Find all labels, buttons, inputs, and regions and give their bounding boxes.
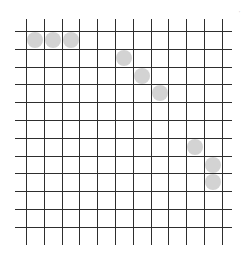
grid-line-horizontal <box>15 31 232 32</box>
stone-piece[interactable] <box>205 157 221 173</box>
grid-line-vertical <box>186 19 187 245</box>
grid-line-vertical <box>62 19 63 245</box>
grid-line-horizontal <box>15 138 232 139</box>
grid-line-horizontal <box>15 156 232 157</box>
grid-line-horizontal <box>15 191 232 192</box>
grid-line-horizontal <box>15 209 232 210</box>
grid-line-vertical <box>204 19 205 245</box>
stone-piece[interactable] <box>116 50 132 66</box>
grid-line-vertical <box>26 19 27 245</box>
stone-piece[interactable] <box>152 85 168 101</box>
grid-line-horizontal <box>15 120 232 121</box>
stone-piece[interactable] <box>45 32 61 48</box>
grid-line-vertical <box>133 19 134 245</box>
grid-line-horizontal <box>15 227 232 228</box>
grid-line-vertical <box>97 19 98 245</box>
grid-line-vertical <box>79 19 80 245</box>
corner-mark: ' <box>239 10 240 16</box>
grid-line-vertical <box>44 19 45 245</box>
game-board[interactable] <box>0 0 249 262</box>
grid-line-vertical <box>151 19 152 245</box>
grid-line-vertical <box>115 19 116 245</box>
stone-piece[interactable] <box>205 174 221 190</box>
grid-line-horizontal <box>15 67 232 68</box>
grid-line-vertical <box>222 19 223 245</box>
grid-line-vertical <box>168 19 169 245</box>
stone-piece[interactable] <box>187 139 203 155</box>
grid-line-horizontal <box>15 84 232 85</box>
stone-piece[interactable] <box>63 32 79 48</box>
grid-line-horizontal <box>15 173 232 174</box>
stone-piece[interactable] <box>27 32 43 48</box>
stone-piece[interactable] <box>134 68 150 84</box>
grid-line-horizontal <box>15 102 232 103</box>
